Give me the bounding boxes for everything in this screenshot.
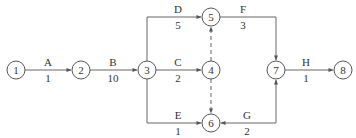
activity-C-name: C	[174, 56, 181, 68]
node-4: 4	[202, 61, 220, 79]
node-8: 8	[334, 61, 352, 79]
activity-A-name: A	[44, 56, 52, 68]
activity-B-duration: 10	[108, 72, 120, 84]
activity-H-duration: 1	[303, 72, 309, 84]
activity-H-name: H	[302, 56, 310, 68]
node-5: 5	[202, 8, 220, 26]
node-2: 2	[72, 61, 90, 79]
network-diagram: A 1 B 10 C 2 D 5 E 1 F 3 G 2 H 1 1 2 3	[0, 0, 356, 138]
activity-G-duration: 2	[244, 125, 250, 137]
node-5-label: 5	[208, 11, 214, 23]
node-1-label: 1	[13, 64, 19, 76]
node-1: 1	[7, 61, 25, 79]
activity-G-name: G	[243, 109, 251, 121]
node-2-label: 2	[78, 64, 84, 76]
activity-E-duration: 1	[175, 125, 181, 137]
activity-A-duration: 1	[45, 72, 51, 84]
node-7: 7	[267, 61, 285, 79]
edge-D	[147, 17, 201, 61]
edges	[25, 17, 333, 123]
activity-D-name: D	[174, 3, 182, 15]
node-3-label: 3	[144, 64, 150, 76]
activity-F-duration: 3	[240, 19, 246, 31]
edge-F	[220, 17, 276, 60]
activity-B-name: B	[109, 56, 116, 68]
node-7-label: 7	[273, 64, 279, 76]
activity-C-duration: 2	[175, 72, 181, 84]
node-6-label: 6	[208, 117, 214, 129]
activity-E-name: E	[175, 109, 182, 121]
node-6: 6	[202, 114, 220, 132]
activity-D-duration: 5	[175, 19, 181, 31]
node-8-label: 8	[340, 64, 346, 76]
activity-F-name: F	[240, 3, 246, 15]
node-4-label: 4	[208, 64, 214, 76]
node-3: 3	[138, 61, 156, 79]
